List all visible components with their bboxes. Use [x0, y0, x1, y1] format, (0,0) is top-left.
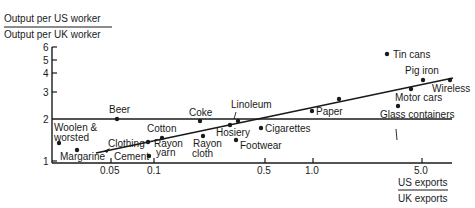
label-cigarettes: Cigarettes — [265, 123, 311, 134]
y-tick-3: 3 — [43, 87, 49, 98]
label-coke: Coke — [189, 107, 213, 118]
point-paper — [310, 109, 314, 113]
label-rayon-yarn-2: yarn — [156, 147, 175, 158]
label-margarine: Margarine — [60, 151, 105, 162]
x-tick-1.0: 1.0 — [305, 165, 319, 176]
point-labels: Woolen & worsted Margarine Clothing Beer… — [53, 49, 470, 162]
x-tick-0.1: 0.1 — [147, 165, 161, 176]
y-ticks: 6 5 4 3 2 1 — [43, 42, 57, 167]
scatter-chart: Output per US worker Output per UK worke… — [0, 0, 475, 208]
y-axis-title-numerator: Output per US worker — [4, 13, 101, 24]
point-pig-iron — [421, 78, 425, 82]
label-paper: Paper — [316, 106, 343, 117]
label-tin-cans: Tin cans — [393, 49, 430, 60]
point-footwear — [234, 138, 238, 142]
point-regression-marker — [337, 97, 341, 101]
x-ticks: 0.05 0.1 0.5 1.0 5.0 — [100, 158, 428, 176]
y-tick-5: 5 — [43, 55, 49, 66]
label-hosiery: Hosiery — [216, 127, 250, 138]
x-tick-5.0: 5.0 — [414, 165, 428, 176]
y-tick-6: 6 — [43, 42, 49, 53]
x-tick-0.05: 0.05 — [100, 165, 120, 176]
label-cotton: Cotton — [147, 123, 176, 134]
y-tick-1: 1 — [43, 156, 49, 167]
x-tick-0.5: 0.5 — [257, 165, 271, 176]
label-rayon-cloth-2: cloth — [192, 148, 213, 159]
label-beer: Beer — [109, 104, 131, 115]
y-axis-title-denominator: Output per UK worker — [4, 29, 101, 40]
label-footwear: Footwear — [240, 140, 282, 151]
point-linoleum — [236, 119, 240, 123]
x-axis-title-denominator: UK exports — [398, 193, 447, 204]
label-cement: Cement — [114, 151, 149, 162]
label-clothing: Clothing — [108, 138, 145, 149]
point-tin-cans — [385, 52, 389, 56]
point-coke — [198, 119, 202, 123]
point-motor-cars — [409, 87, 413, 91]
label-worsted: worsted — [53, 132, 89, 143]
label-wireless: Wireless — [432, 83, 470, 94]
label-pig-iron: Pig iron — [405, 65, 439, 76]
point-glass-containers — [396, 104, 400, 108]
y-tick-4: 4 — [43, 68, 49, 79]
glass-pointer — [396, 129, 397, 140]
label-linoleum: Linoleum — [231, 99, 272, 110]
linoleum-pointer — [234, 112, 236, 119]
point-wireless — [448, 78, 452, 82]
x-axis-title-numerator: US exports — [398, 177, 447, 188]
label-glass-containers: Glass containers — [380, 109, 454, 120]
point-rayon-yarn — [146, 140, 150, 144]
point-beer — [115, 117, 119, 121]
y-tick-2: 2 — [43, 114, 49, 125]
point-cigarettes — [259, 126, 263, 130]
